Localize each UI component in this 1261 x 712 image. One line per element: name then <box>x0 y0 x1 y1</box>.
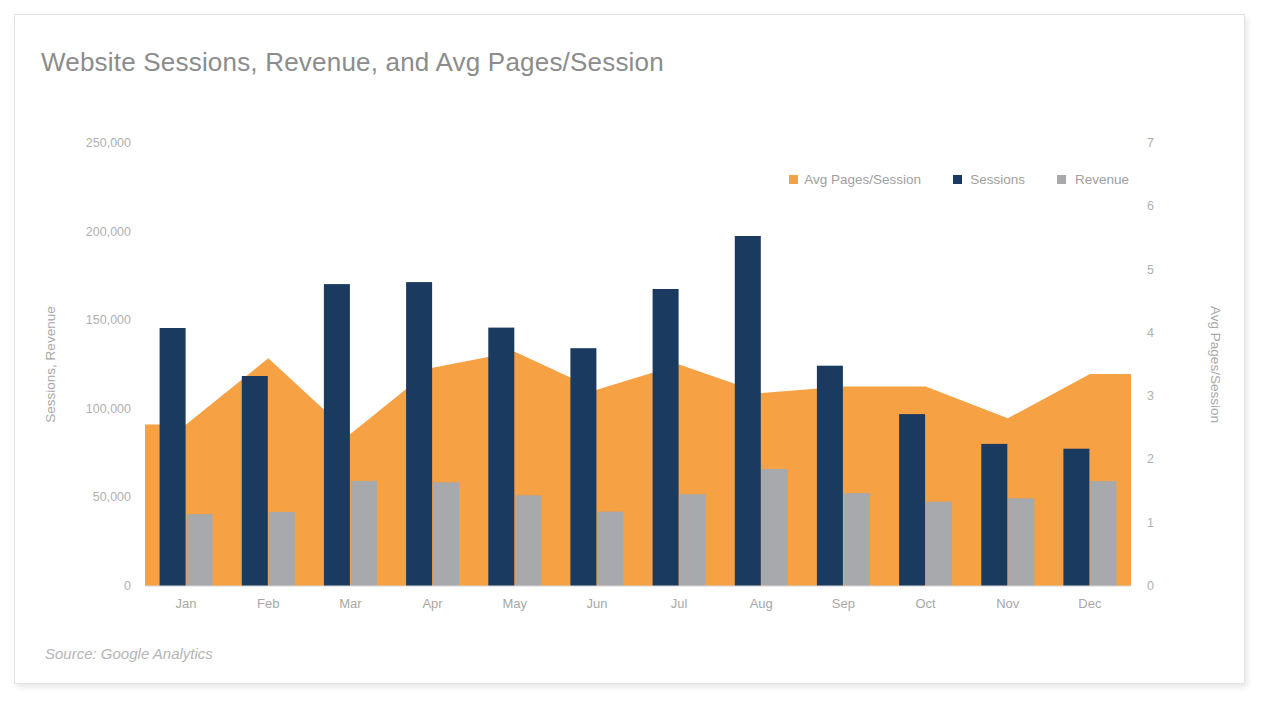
y-axis-tick-left: 100,000 <box>86 402 131 416</box>
chart-plot-area: 050,000100,000150,000200,000250,00001234… <box>15 15 1246 685</box>
legend-swatch-revenue <box>1057 175 1066 184</box>
y-axis-tick-right: 0 <box>1147 579 1154 593</box>
x-axis-label-sep: Sep <box>832 596 855 611</box>
bar-sessions-sep[interactable] <box>817 366 843 586</box>
bar-revenue-jan[interactable] <box>187 514 213 586</box>
bar-sessions-mar[interactable] <box>324 284 350 586</box>
bar-sessions-dec[interactable] <box>1063 449 1089 586</box>
bar-revenue-mar[interactable] <box>351 481 377 586</box>
y-axis-tick-left: 250,000 <box>86 136 131 150</box>
bar-revenue-feb[interactable] <box>269 512 295 586</box>
y-axis-title-right: Avg Pages/Session <box>1208 306 1223 423</box>
bar-sessions-may[interactable] <box>488 328 514 586</box>
source-note: Source: Google Analytics <box>45 645 213 662</box>
bar-sessions-nov[interactable] <box>981 444 1007 586</box>
legend-swatch-sessions <box>953 175 962 184</box>
bar-revenue-jul[interactable] <box>680 494 706 586</box>
legend-label-sessions: Sessions <box>970 172 1025 187</box>
y-axis-tick-left: 200,000 <box>86 225 131 239</box>
bar-revenue-may[interactable] <box>515 495 541 586</box>
x-axis-label-jul: Jul <box>671 596 688 611</box>
y-axis-tick-right: 1 <box>1147 516 1154 530</box>
x-axis-label-jan: Jan <box>176 596 197 611</box>
x-axis-label-oct: Oct <box>915 596 936 611</box>
bar-sessions-aug[interactable] <box>735 236 761 586</box>
bar-revenue-apr[interactable] <box>433 482 459 586</box>
y-axis-tick-right: 2 <box>1147 452 1154 466</box>
bar-sessions-jun[interactable] <box>570 348 596 586</box>
x-axis-label-nov: Nov <box>996 596 1020 611</box>
legend-label-avg-pages-session: Avg Pages/Session <box>804 172 921 187</box>
x-axis-label-apr: Apr <box>422 596 443 611</box>
y-axis-tick-right: 3 <box>1147 389 1154 403</box>
y-axis-tick-left: 150,000 <box>86 313 131 327</box>
x-axis-label-dec: Dec <box>1078 596 1102 611</box>
bar-revenue-aug[interactable] <box>762 469 788 586</box>
bar-revenue-oct[interactable] <box>926 502 952 586</box>
x-axis-label-mar: Mar <box>339 596 362 611</box>
bar-revenue-nov[interactable] <box>1008 498 1034 586</box>
legend-label-revenue: Revenue <box>1075 172 1129 187</box>
y-axis-tick-right: 6 <box>1147 199 1154 213</box>
x-axis-label-may: May <box>502 596 527 611</box>
bar-revenue-jun[interactable] <box>597 512 623 586</box>
y-axis-tick-right: 5 <box>1147 263 1154 277</box>
bar-sessions-apr[interactable] <box>406 282 432 586</box>
bar-revenue-sep[interactable] <box>844 493 870 586</box>
y-axis-title-left: Sessions, Revenue <box>43 306 58 422</box>
y-axis-tick-left: 0 <box>124 579 131 593</box>
y-axis-tick-left: 50,000 <box>93 490 131 504</box>
bar-sessions-jan[interactable] <box>160 328 186 586</box>
x-axis-label-feb: Feb <box>257 596 279 611</box>
y-axis-tick-right: 7 <box>1147 136 1154 150</box>
x-axis-label-jun: Jun <box>586 596 607 611</box>
bar-sessions-jul[interactable] <box>653 289 679 586</box>
y-axis-tick-right: 4 <box>1147 326 1154 340</box>
bar-revenue-dec[interactable] <box>1090 481 1116 586</box>
bar-sessions-oct[interactable] <box>899 414 925 586</box>
bar-sessions-feb[interactable] <box>242 376 268 586</box>
x-axis-label-aug: Aug <box>750 596 773 611</box>
chart-card: Website Sessions, Revenue, and Avg Pages… <box>14 14 1245 684</box>
legend-swatch-avg-pages-session <box>789 175 798 184</box>
